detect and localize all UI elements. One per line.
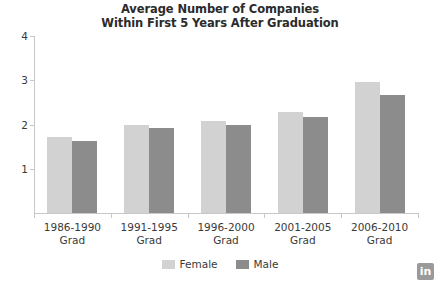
x-axis-tick — [418, 213, 419, 218]
legend-item-female[interactable]: Female — [162, 258, 218, 270]
y-axis-tick — [30, 80, 34, 81]
x-axis-tick — [341, 213, 342, 218]
y-axis-line — [34, 36, 35, 214]
chart-legend: FemaleMale — [0, 258, 440, 270]
bar-group — [47, 36, 97, 213]
y-axis-tick — [30, 169, 34, 170]
bar-female-5 — [355, 82, 380, 213]
x-axis-label-line-2: Grad — [341, 234, 418, 247]
x-axis-tick — [188, 213, 189, 218]
bar-male-2 — [149, 128, 174, 213]
bar-female-2 — [124, 125, 149, 213]
x-axis-label-line-1: 1996-2000 — [188, 221, 265, 234]
bar-female-1 — [47, 137, 72, 213]
x-axis-label-line-1: 1991-1995 — [111, 221, 188, 234]
x-axis-label-line-2: Grad — [34, 234, 111, 247]
legend-item-male[interactable]: Male — [236, 258, 279, 270]
bar-group — [201, 36, 251, 213]
x-axis-line — [34, 213, 419, 214]
x-axis-tick — [264, 213, 265, 218]
bar-group — [355, 36, 405, 213]
x-axis-label: 1996-2000Grad — [188, 221, 265, 247]
bar-male-3 — [226, 125, 251, 214]
chart-title-line-2: Within First 5 Years After Graduation — [0, 17, 440, 31]
x-axis-label-line-2: Grad — [111, 234, 188, 247]
bar-group — [278, 36, 328, 213]
y-axis-tick — [30, 36, 34, 37]
x-axis-label-line-1: 1986-1990 — [34, 221, 111, 234]
x-axis-label-line-1: 2001-2005 — [264, 221, 341, 234]
bar-chart: Average Number of Companies Within First… — [0, 0, 440, 284]
x-axis-label-line-2: Grad — [264, 234, 341, 247]
legend-swatch-female — [162, 260, 175, 269]
x-axis-label-line-2: Grad — [188, 234, 265, 247]
x-axis-label-line-1: 2006-2010 — [341, 221, 418, 234]
bar-male-5 — [380, 95, 405, 213]
x-axis-label: 2006-2010Grad — [341, 221, 418, 247]
y-axis-tick-label: 4 — [10, 31, 28, 41]
chart-title: Average Number of Companies Within First… — [0, 3, 440, 30]
x-axis-tick — [34, 213, 35, 218]
y-axis-tick-label: 1 — [10, 164, 28, 174]
x-axis-label: 1986-1990Grad — [34, 221, 111, 247]
legend-label-female: Female — [180, 258, 218, 270]
bar-female-3 — [201, 121, 226, 213]
y-axis-tick-label: 2 — [10, 120, 28, 130]
x-axis-label: 1991-1995Grad — [111, 221, 188, 247]
bar-male-4 — [303, 117, 328, 213]
x-axis-tick — [111, 213, 112, 218]
bar-male-1 — [72, 141, 97, 213]
legend-label-male: Male — [254, 258, 279, 270]
bar-female-4 — [278, 112, 303, 213]
y-axis-tick-label: 3 — [10, 75, 28, 85]
linkedin-logo-icon: in — [417, 263, 434, 280]
bar-group — [124, 36, 174, 213]
y-axis-tick — [30, 125, 34, 126]
chart-title-line-1: Average Number of Companies — [0, 3, 440, 17]
x-axis-label: 2001-2005Grad — [264, 221, 341, 247]
legend-swatch-male — [236, 260, 249, 269]
